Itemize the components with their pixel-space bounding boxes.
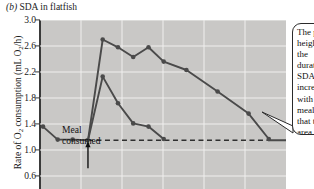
data-point [100, 37, 105, 42]
meal-annotation-line1: Meal [62, 126, 82, 136]
data-point [116, 101, 121, 106]
data-point [146, 124, 151, 129]
data-point [131, 55, 136, 60]
data-point [161, 59, 166, 64]
data-point [246, 111, 251, 116]
series-line [88, 40, 269, 141]
callout-text: The peak height and the duration of SDA … [297, 27, 314, 135]
ylabel-part-3: /h) [13, 36, 23, 47]
callout-box: The peak height and the duration of SDA … [292, 23, 314, 135]
data-point [116, 45, 121, 50]
data-point [215, 89, 220, 94]
figure-panel: (b) SDA in flatfish Rate of O2 consumpti… [0, 0, 314, 189]
data-point [100, 74, 105, 79]
title-text: SDA in flatfish [19, 2, 77, 12]
panel-label: (b) [6, 2, 17, 12]
chart-canvas [40, 20, 286, 189]
data-point [184, 68, 189, 73]
data-point [55, 137, 60, 142]
ylabel-part-1: Rate of O [13, 132, 23, 169]
data-point [161, 137, 166, 142]
series-line [88, 77, 164, 141]
meal-annotation-line2: consumed [62, 137, 101, 147]
data-point [146, 45, 151, 50]
data-point [267, 137, 272, 142]
ylabel-sub-1: 2 [17, 129, 25, 133]
ylabel-part-2: consumption (mL O [13, 50, 23, 129]
gridlines [40, 20, 286, 189]
data-point [41, 124, 46, 129]
plot-area: 3.02.62.21.81.41.00.6 [40, 20, 286, 189]
data-point [131, 121, 136, 126]
figure-title: (b) SDA in flatfish [6, 2, 77, 12]
